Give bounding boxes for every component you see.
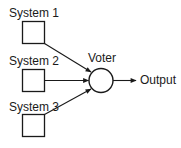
system-3-box xyxy=(23,115,45,137)
output-label: Output xyxy=(140,74,176,86)
system-3-label: System 3 xyxy=(9,101,59,113)
system-2-label: System 2 xyxy=(9,55,59,67)
voter-circle xyxy=(89,69,113,93)
system-2-box xyxy=(23,70,45,92)
voter-label: Voter xyxy=(88,52,116,64)
system-1-box xyxy=(23,22,45,44)
system-1-label: System 1 xyxy=(9,7,59,19)
